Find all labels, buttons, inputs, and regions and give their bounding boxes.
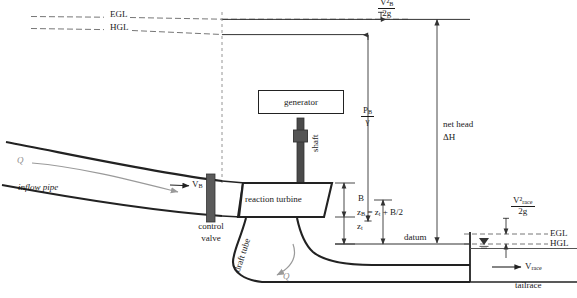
tailrace-hgl-label: HGL: [550, 239, 569, 248]
velocity-head-b-denominator: 2g: [378, 8, 395, 18]
pressure-head-b-dimension: [364, 35, 371, 222]
reaction-turbine-label: reaction turbine: [245, 195, 302, 204]
upstream-egl-line: [31, 17, 411, 20]
draft-tube-walls: [233, 218, 470, 282]
zb-equation-label: zB = zt + B/2: [357, 208, 403, 218]
velocity-head-race-denominator: 2g: [511, 206, 535, 216]
inflow-pipe-walls: [2, 142, 222, 216]
water-surface-symbol: [479, 238, 489, 248]
zt-label: zt: [357, 222, 363, 232]
b-height-dimension: [335, 182, 355, 217]
tailrace-label: tailrace: [515, 281, 541, 290]
control-valve-label-line1: control: [185, 222, 237, 231]
velocity-b-label: VB: [192, 180, 203, 190]
velocity-head-race-numerator: V²race: [511, 196, 535, 206]
control-valve-label-line2: valve: [185, 234, 237, 243]
velocity-head-b-label: V²B 2g: [378, 0, 395, 18]
pressure-head-b-label: PB γ: [361, 106, 374, 126]
shaft-label: shaft: [310, 135, 320, 153]
pressure-head-b-numerator: PB: [361, 106, 374, 116]
outflow-discharge-label: Q: [283, 272, 290, 281]
net-head-dimension: [434, 19, 439, 244]
datum-label: datum: [404, 233, 427, 242]
tailrace-depth-dimension: [504, 243, 509, 258]
inflow-pipe-label: inflow pipe: [18, 183, 58, 192]
velocity-head-race-dimension: [503, 218, 509, 235]
diagram-vector-layer: [0, 0, 577, 298]
inflow-discharge-label: Q: [17, 156, 24, 165]
control-valve-gate[interactable]: [207, 174, 216, 222]
velocity-head-b-numerator: V²B: [378, 0, 395, 8]
net-head-symbol: ΔH: [443, 133, 455, 142]
upstream-hgl-label: HGL: [110, 23, 129, 32]
turbine-height-label: B: [358, 194, 364, 203]
generator-box[interactable]: generator: [258, 90, 344, 114]
figure-canvas: EGL HGL V²B 2g PB γ net head ΔH generato…: [0, 0, 577, 298]
pressure-head-b-denominator: γ: [361, 116, 374, 126]
velocity-head-race-label: V²race 2g: [511, 196, 535, 216]
turbine-shaft: [294, 118, 308, 189]
upstream-egl-label: EGL: [110, 10, 128, 19]
velocity-b-arrow: [170, 185, 189, 186]
zt-elevation-dimension: [335, 217, 355, 245]
net-head-label: net head: [443, 120, 473, 129]
velocity-race-label: Vrace: [525, 262, 542, 272]
